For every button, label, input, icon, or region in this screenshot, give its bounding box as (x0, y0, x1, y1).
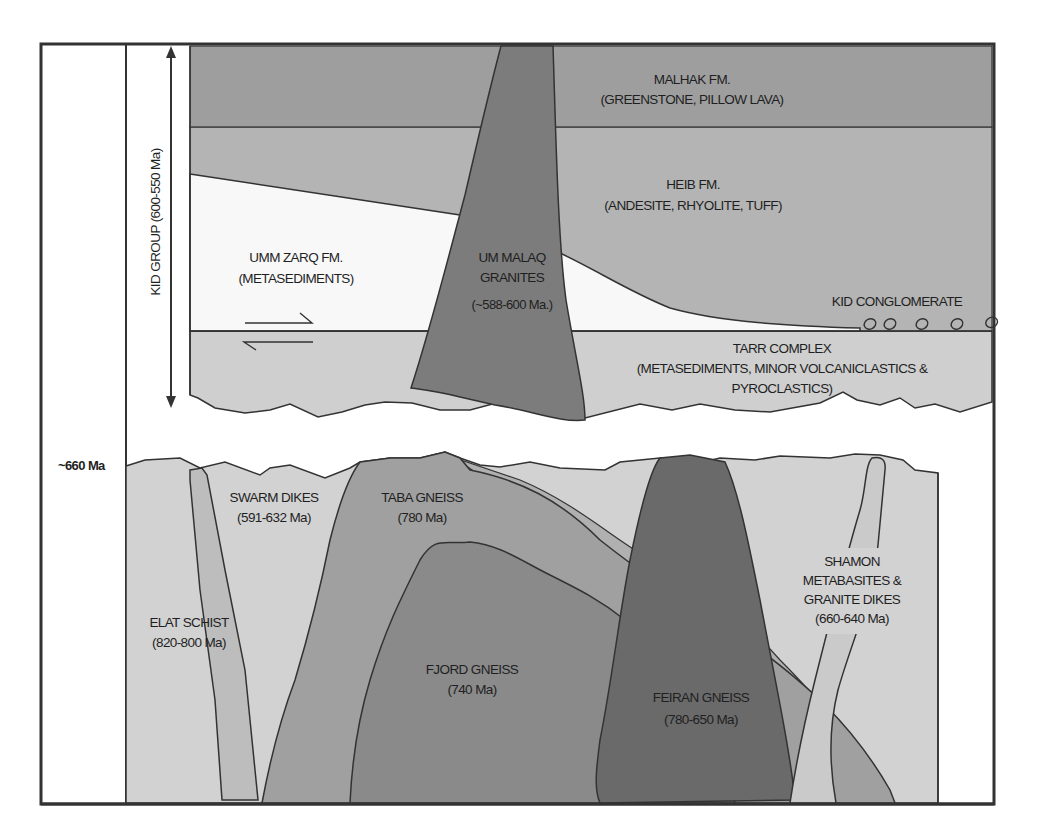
shamon-line-2: METABASITES & (803, 573, 902, 588)
malhak-desc: (GREENSTONE, PILLOW LAVA) (600, 92, 783, 107)
um-malaq-name-2: GRANITES (480, 270, 545, 285)
heib-desc: (ANDESITE, RHYOLITE, TUFF) (604, 198, 782, 213)
umm-zarq-desc: (METASEDIMENTS) (238, 271, 353, 286)
um-malaq-age: (~588-600 Ma.) (472, 297, 553, 312)
umm-zarq-name: UMM ZARQ FM. (249, 250, 342, 265)
kid-conglomerate-label: KID CONGLOMERATE (832, 294, 963, 309)
malhak-name: MALHAK FM. (654, 72, 731, 87)
fjord-gneiss-name: FJORD GNEISS (426, 662, 519, 677)
taba-gneiss-age: (780 Ma) (397, 510, 446, 525)
shamon-line-1: SHAMON (824, 554, 880, 569)
feiran-gneiss-age: (780-650 Ma) (664, 712, 738, 727)
swarm-dikes-name: SWARM DIKES (230, 490, 320, 505)
um-malaq-name-1: UM MALAQ (478, 250, 545, 265)
heib-name: HEIB FM. (666, 177, 720, 192)
geologic-cross-section: KID GROUP (600-550 Ma) ~660 Ma MALHAK FM… (0, 0, 1042, 836)
shamon-age: (660-640 Ma) (815, 611, 889, 626)
shamon-line-3: GRANITE DIKES (804, 592, 901, 607)
taba-gneiss-name: TABA GNEISS (381, 490, 463, 505)
age-marker-660: ~660 Ma (58, 458, 106, 473)
feiran-gneiss-name: FEIRAN GNEISS (653, 690, 750, 705)
kid-group-label: KID GROUP (600-550 Ma) (148, 148, 163, 295)
unit-malhak-fm (190, 46, 992, 127)
elat-schist-name: ELAT SCHIST (149, 615, 229, 630)
tarr-desc-1: (METASEDIMENTS, MINOR VOLCANICLASTICS & (637, 361, 928, 376)
fjord-gneiss-age: (740 Ma) (447, 682, 496, 697)
tarr-name: TARR COMPLEX (733, 341, 832, 356)
tarr-desc-2: PYROCLASTICS) (732, 381, 833, 396)
swarm-dikes-age: (591-632 Ma) (237, 510, 311, 525)
elat-schist-age: (820-800 Ma) (152, 635, 226, 650)
